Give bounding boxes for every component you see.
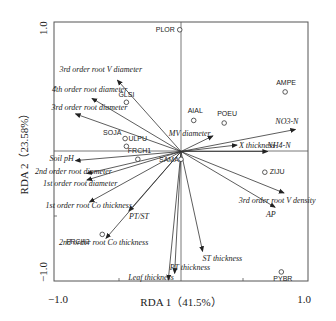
species-label: FRCH2 [66, 238, 89, 245]
env-arrow [106, 152, 181, 239]
species-marker [100, 232, 105, 237]
env-variable-label: 1st order root Co thickness [46, 201, 133, 210]
y-tick-min: −1.0 [37, 262, 49, 282]
env-variable-label: 4th order root diameter [52, 85, 128, 94]
species-label: SOJA [103, 129, 122, 136]
y-tick-max: 1.0 [37, 21, 49, 35]
species-marker [279, 270, 284, 275]
env-arrow [168, 152, 181, 280]
species-marker [283, 90, 288, 95]
species-marker [136, 157, 141, 162]
env-variable-label: Leaf thickness [127, 273, 174, 282]
species-marker [179, 157, 184, 162]
species-marker [123, 136, 128, 141]
env-arrow [181, 152, 203, 252]
x-axis-title: RDA 1（41.5%） [140, 296, 221, 308]
species-marker [124, 100, 129, 105]
env-variable-label: PT/ST [128, 212, 150, 221]
env-variable-label: X thickness [238, 141, 275, 150]
species-marker [263, 170, 268, 175]
env-variable-label: PT thickness [169, 263, 211, 272]
y-axis-title: RDA 2（23.58%） [18, 108, 30, 195]
species-marker [177, 27, 182, 32]
species-label: SAMA [159, 156, 179, 163]
env-arrow [181, 152, 284, 193]
env-arrow [181, 136, 213, 152]
species-label: GLSI [118, 91, 134, 98]
species-label: FRCH1 [128, 147, 151, 154]
env-variable-label: MV diameter [168, 129, 212, 138]
env-variable-label: 3rd order root V density [238, 196, 316, 205]
x-tick-max: 1.0 [297, 293, 311, 305]
species-marker [222, 121, 227, 126]
species-label: PLOR [156, 26, 175, 33]
env-variable-label: AP [265, 210, 276, 219]
env-variable-label: ST thickness [203, 254, 243, 263]
env-variable-label: 2nd order root diameter [35, 167, 113, 176]
env-variable-label: NO3-N [274, 117, 299, 126]
rda-biplot: 3rd order root V diameter4th order root … [0, 0, 336, 321]
species-label: AMPE [276, 79, 296, 86]
env-variable-label: 1st order root diameter [43, 179, 118, 188]
species-label: AIAL [188, 107, 203, 114]
env-variable-label: 3rd order root diameter [51, 103, 129, 112]
species-label: ULPU [128, 135, 147, 142]
species-label: ZIJU [270, 168, 285, 175]
species-label: PYBR [273, 275, 292, 282]
species-marker [191, 118, 196, 123]
env-variable-label: 3rd order root V diameter [59, 65, 143, 74]
env-variable-label: Soil pH [50, 154, 75, 163]
env-arrow [175, 152, 181, 274]
x-tick-min: −1.0 [48, 293, 68, 305]
species-label: POEU [217, 110, 237, 117]
